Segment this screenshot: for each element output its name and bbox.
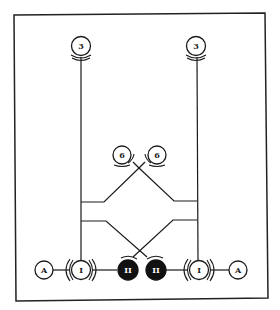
node-mid-right-6: 6: [145, 146, 166, 167]
diagram-frame: [14, 13, 268, 301]
node-label: A: [234, 265, 242, 275]
node-label: 6: [154, 150, 160, 160]
node-label: II: [152, 265, 160, 275]
mid-right-link: [139, 162, 145, 168]
node-label: I: [79, 265, 83, 275]
node-bottom-center-right-ii: II: [146, 256, 166, 280]
node-bottom-left-a: A: [35, 261, 53, 279]
lower-right-cross-line: [133, 220, 197, 257]
node-bottom-center-left-ii: II: [118, 256, 138, 280]
mid-left-link: [133, 162, 139, 168]
upper-left-connector: [81, 168, 139, 202]
upper-right-connector: [139, 168, 197, 201]
lower-left-cross-line: [81, 221, 147, 257]
node-bottom-right-a: A: [229, 261, 247, 279]
node-label: 3: [78, 41, 84, 51]
node-label: 6: [119, 150, 125, 160]
node-label: 3: [193, 41, 199, 51]
node-bottom-right-i: I: [184, 259, 214, 281]
node-label: I: [197, 265, 201, 275]
node-label: A: [40, 265, 48, 275]
node-bottom-left-i: I: [66, 259, 96, 281]
right-vertical-line: [197, 57, 198, 260]
node-top-right-3: 3: [186, 37, 206, 61]
node-label: II: [124, 265, 132, 275]
node-mid-left-6: 6: [113, 146, 134, 167]
diagram-canvas: 3 3 6 6 A I II II: [0, 0, 280, 310]
node-top-left-3: 3: [71, 37, 91, 61]
